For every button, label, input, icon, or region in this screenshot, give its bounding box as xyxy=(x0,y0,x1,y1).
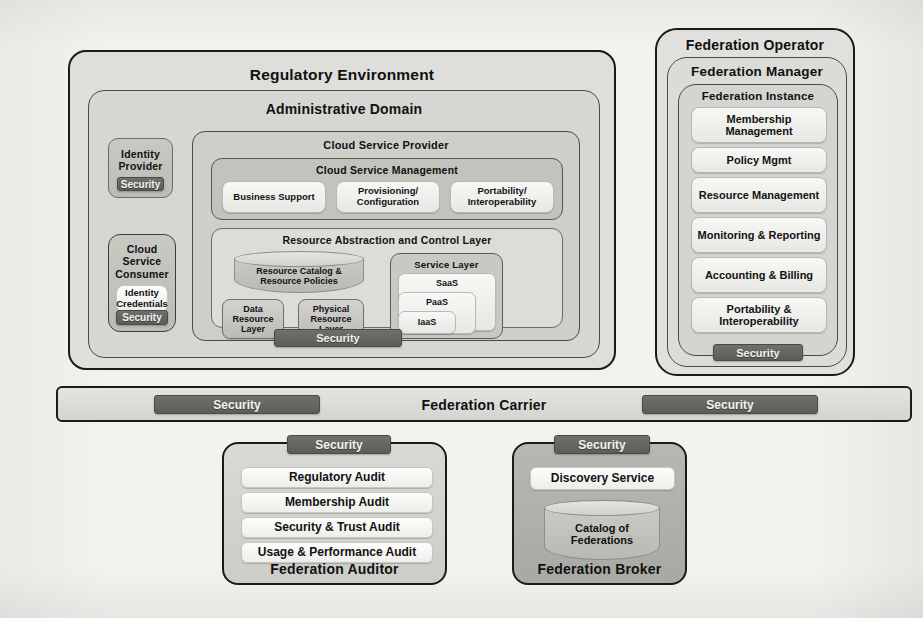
administrative-domain-title: Administrative Domain xyxy=(89,101,599,117)
federation-item-portability-interoperability[interactable]: Portability & Interoperability xyxy=(691,297,827,333)
auditor-item-usage-performance-audit[interactable]: Usage & Performance Audit xyxy=(241,542,433,563)
cloud-service-consumer-security-bar[interactable]: Security xyxy=(116,310,168,325)
resource-catalog-label: Resource Catalog & Resource Policies xyxy=(234,263,364,289)
cloud-service-management-title: Cloud Service Management xyxy=(212,164,562,176)
federation-item-monitoring-reporting[interactable]: Monitoring & Reporting xyxy=(691,217,827,253)
auditor-item-regulatory-audit[interactable]: Regulatory Audit xyxy=(241,467,433,488)
identity-provider-security-bar[interactable]: Security xyxy=(117,177,164,191)
federation-operator-container[interactable]: Federation Operator Federation Manager F… xyxy=(655,28,855,376)
federation-instance-title: Federation Instance xyxy=(679,90,837,102)
federation-carrier-security-left[interactable]: Security xyxy=(154,395,320,414)
federation-carrier-bar[interactable]: Federation Carrier Security Security xyxy=(56,386,912,422)
federation-broker-security-bar[interactable]: Security xyxy=(554,435,650,454)
auditor-item-membership-audit[interactable]: Membership Audit xyxy=(241,492,433,513)
federation-item-membership-management[interactable]: Membership Management xyxy=(691,107,827,143)
federation-item-accounting-billing[interactable]: Accounting & Billing xyxy=(691,257,827,293)
service-tier-iaas[interactable]: IaaS xyxy=(398,311,456,334)
federation-item-policy-mgmt[interactable]: Policy Mgmt xyxy=(691,147,827,173)
regulatory-environment-title: Regulatory Environment xyxy=(70,66,614,84)
federation-auditor-container[interactable]: Security Regulatory Audit Membership Aud… xyxy=(222,442,447,585)
cloud-service-consumer-title: Cloud Service Consumer xyxy=(109,243,175,280)
federation-operator-security-bar[interactable]: Security xyxy=(713,344,803,361)
federation-carrier-security-right[interactable]: Security xyxy=(642,395,818,414)
catalog-of-federations-cylinder[interactable]: Catalog of Federations xyxy=(544,500,660,560)
administrative-domain-container[interactable]: Administrative Domain Identity Provider … xyxy=(88,90,600,358)
provisioning-configuration-chip[interactable]: Provisioning/ Configuration xyxy=(336,181,440,213)
federation-broker-title: Federation Broker xyxy=(514,561,685,577)
service-layer-title: Service Layer xyxy=(391,259,502,270)
federation-auditor-title: Federation Auditor xyxy=(224,561,445,577)
cloud-service-consumer-container[interactable]: Cloud Service Consumer Identity Credenti… xyxy=(108,234,176,332)
service-layer-container[interactable]: Service Layer SaaS PaaS IaaS xyxy=(390,253,503,339)
resource-abstraction-and-control-layer-title: Resource Abstraction and Control Layer xyxy=(212,234,562,246)
business-support-chip[interactable]: Business Support xyxy=(222,181,326,213)
cloud-service-provider-title: Cloud Service Provider xyxy=(193,139,579,151)
federation-manager-title: Federation Manager xyxy=(668,64,846,79)
auditor-item-security-trust-audit[interactable]: Security & Trust Audit xyxy=(241,517,433,538)
federation-item-resource-management[interactable]: Resource Management xyxy=(691,177,827,213)
cloud-service-provider-container[interactable]: Cloud Service Provider Cloud Service Man… xyxy=(192,131,580,341)
resource-abstraction-and-control-layer-container[interactable]: Resource Abstraction and Control Layer R… xyxy=(211,228,563,328)
resource-catalog-cylinder[interactable]: Resource Catalog & Resource Policies xyxy=(234,251,364,293)
catalog-of-federations-label: Catalog of Federations xyxy=(544,512,660,556)
identity-provider-container[interactable]: Identity Provider Security xyxy=(108,138,173,198)
identity-credentials-chip[interactable]: Identity Credentials xyxy=(116,285,168,313)
federation-manager-container[interactable]: Federation Manager Federation Instance M… xyxy=(667,57,847,367)
federation-operator-title: Federation Operator xyxy=(657,37,853,53)
regulatory-environment-container[interactable]: Regulatory Environment Administrative Do… xyxy=(68,50,616,370)
portability-interoperability-chip[interactable]: Portability/ Interoperability xyxy=(450,181,554,213)
administrative-domain-security-bar[interactable]: Security xyxy=(274,329,402,347)
identity-provider-title: Identity Provider xyxy=(109,148,172,172)
discovery-service-chip[interactable]: Discovery Service xyxy=(530,467,675,490)
federation-auditor-security-bar[interactable]: Security xyxy=(287,435,391,454)
federation-broker-container[interactable]: Security Discovery Service Catalog of Fe… xyxy=(512,442,687,585)
cloud-service-management-container[interactable]: Cloud Service Management Business Suppor… xyxy=(211,158,563,220)
federation-instance-container[interactable]: Federation Instance Membership Managemen… xyxy=(678,84,838,356)
